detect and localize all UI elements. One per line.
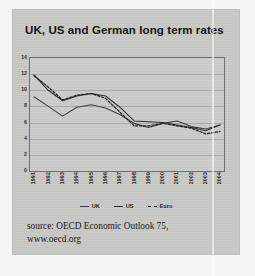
- screenshot-root: UK, US and German long term rates 024681…: [0, 0, 255, 276]
- source-line-2: www.oecd.org: [27, 233, 237, 246]
- x-tick-label-2004: 2004: [216, 172, 222, 184]
- y-axis-labels: 02468101214: [13, 57, 29, 170]
- y-tick-label-6: 6: [24, 119, 27, 125]
- x-tick-label-1994: 1994: [73, 172, 79, 184]
- legend-label: UK: [92, 203, 100, 209]
- legend-label: Euro: [160, 203, 173, 209]
- y-tick-label-8: 8: [24, 102, 27, 108]
- plot-area: [29, 57, 225, 172]
- legend-item-us[interactable]: US: [114, 203, 134, 209]
- y-tick-label-2: 2: [24, 151, 27, 157]
- x-tick-label-1993: 1993: [59, 172, 65, 184]
- x-tick-label-1998: 1998: [131, 172, 137, 184]
- x-tick-label-1996: 1996: [102, 172, 108, 184]
- gridline-y-6: [30, 123, 224, 124]
- legend-swatch-uk-icon: [80, 206, 89, 207]
- y-tick-label-4: 4: [24, 135, 27, 141]
- source-line-1: source: OECD Economic Outlook 75,: [27, 220, 237, 233]
- chart-title: UK, US and German long term rates: [25, 24, 224, 36]
- legend-label: US: [126, 203, 134, 209]
- x-tick-label-1997: 1997: [116, 172, 122, 184]
- x-tick-label-2003: 2003: [202, 172, 208, 184]
- gridline-y-12: [30, 74, 224, 75]
- x-tick-label-2001: 2001: [173, 172, 179, 184]
- series-line-euro: [34, 76, 220, 134]
- legend-swatch-us-icon: [114, 206, 123, 207]
- figure-card: UK, US and German long term rates 024681…: [13, 10, 239, 254]
- gridline-y-10: [30, 90, 224, 91]
- gridline-y-2: [30, 155, 224, 156]
- gridline-y-4: [30, 139, 224, 140]
- x-tick-label-2002: 2002: [188, 172, 194, 184]
- y-tick-label-0: 0: [24, 167, 27, 173]
- y-tick-label-14: 14: [21, 54, 27, 60]
- y-tick-label-12: 12: [21, 70, 27, 76]
- gridline-y-8: [30, 106, 224, 107]
- source-note: source: OECD Economic Outlook 75, www.oe…: [27, 220, 237, 247]
- x-tick-label-1999: 1999: [145, 172, 151, 184]
- y-tick-label-10: 10: [21, 86, 27, 92]
- legend-item-euro[interactable]: Euro: [148, 203, 173, 209]
- chart-legend: UKUSEuro: [29, 203, 223, 209]
- x-axis-labels: 1991199219931994199519961997199819992000…: [29, 172, 223, 202]
- legend-item-uk[interactable]: UK: [80, 203, 100, 209]
- x-tick-label-2000: 2000: [159, 172, 165, 184]
- x-tick-label-1991: 1991: [30, 172, 36, 184]
- series-line-uk: [34, 97, 220, 129]
- legend-swatch-euro-icon: [148, 206, 157, 207]
- x-tick-label-1995: 1995: [88, 172, 94, 184]
- x-tick-label-1992: 1992: [45, 172, 51, 184]
